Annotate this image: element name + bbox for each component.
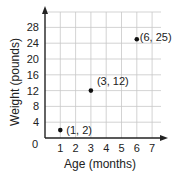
y-tick-label: 24 xyxy=(27,37,39,49)
y-tick-label: 28 xyxy=(27,21,39,33)
y-axis-label: Weight (pounds) xyxy=(8,38,22,126)
scatter-chart: 12345674812162024280 (1, 2)(3, 12)(6, 25… xyxy=(0,0,180,181)
x-tick-label: 5 xyxy=(118,142,124,154)
x-tick-label: 1 xyxy=(57,142,63,154)
y-tick-label: 12 xyxy=(27,85,39,97)
data-point-label: (6, 25) xyxy=(140,31,172,43)
data-point-label: (3, 12) xyxy=(97,75,129,87)
x-axis-label: Age (months) xyxy=(64,157,136,171)
origin-label: 0 xyxy=(32,138,38,150)
data-point xyxy=(135,37,140,42)
data-point-label: (1, 2) xyxy=(66,124,92,136)
x-axis-arrow-icon xyxy=(160,135,168,141)
x-tick-label: 3 xyxy=(88,142,94,154)
y-tick-label: 16 xyxy=(27,69,39,81)
data-points: (1, 2)(3, 12)(6, 25) xyxy=(58,31,172,136)
x-tick-label: 6 xyxy=(134,142,140,154)
y-tick-label: 20 xyxy=(27,53,39,65)
axes xyxy=(42,6,168,141)
data-point xyxy=(58,128,63,133)
x-tick-label: 2 xyxy=(73,142,79,154)
y-axis-arrow-icon xyxy=(42,6,48,14)
data-point xyxy=(89,88,94,93)
y-tick-label: 4 xyxy=(33,116,39,128)
y-tick-label: 8 xyxy=(33,100,39,112)
x-tick-label: 4 xyxy=(103,142,109,154)
x-tick-label: 7 xyxy=(149,142,155,154)
